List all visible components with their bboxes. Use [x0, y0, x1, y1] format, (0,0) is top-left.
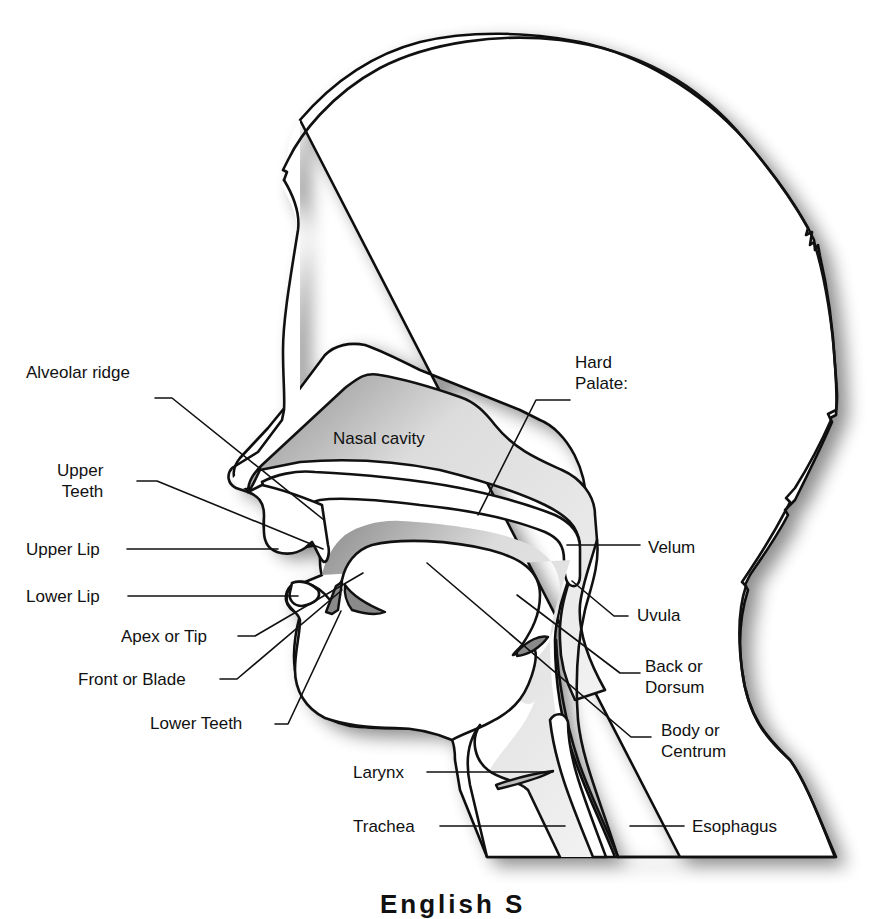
- label-lower-lip: Lower Lip: [26, 586, 100, 607]
- label-upper-lip: Upper Lip: [26, 539, 100, 560]
- label-alveolar-ridge: Alveolar ridge: [26, 362, 130, 383]
- label-uvula: Uvula: [637, 605, 680, 626]
- label-velum: Velum: [648, 537, 695, 558]
- label-nasal-cavity: Nasal cavity: [333, 428, 425, 449]
- label-body-or-centrum: Body or Centrum: [661, 720, 726, 762]
- label-larynx: Larynx: [353, 762, 404, 783]
- label-trachea: Trachea: [353, 816, 415, 837]
- label-hard-palate: Hard Palate:: [575, 352, 628, 394]
- label-lower-teeth: Lower Teeth: [150, 713, 242, 734]
- label-front-or-blade: Front or Blade: [78, 669, 186, 690]
- label-back-or-dorsum: Back or Dorsum: [645, 656, 705, 698]
- label-upper-teeth: Upper Teeth: [57, 460, 103, 502]
- figure-caption-partial: English S: [380, 890, 620, 918]
- label-esophagus: Esophagus: [692, 816, 777, 837]
- label-apex-or-tip: Apex or Tip: [121, 626, 207, 647]
